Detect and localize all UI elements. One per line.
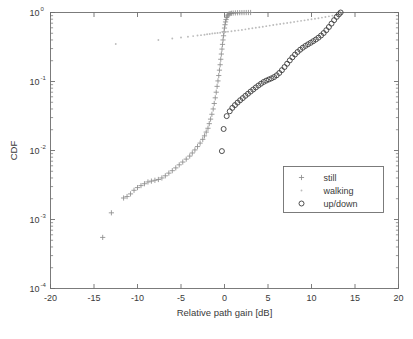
y-tick-base: 10 <box>29 215 39 225</box>
y-tick-base: 10 <box>29 8 39 18</box>
marker-plus <box>166 171 171 176</box>
marker-dot <box>251 27 253 29</box>
marker-plus <box>192 147 197 152</box>
marker-dot <box>328 15 330 17</box>
marker-circle <box>219 149 224 154</box>
marker-circle <box>221 126 226 131</box>
y-tick-base: 10 <box>29 146 39 156</box>
x-tick-label: 20 <box>393 293 403 303</box>
marker-plus <box>219 51 224 56</box>
legend-label: up/down <box>324 199 358 209</box>
marker-dot <box>222 31 224 33</box>
marker-plus <box>209 112 214 117</box>
marker-dot <box>244 28 246 30</box>
y-tick-base: 10 <box>29 77 39 87</box>
marker-circle <box>224 114 229 119</box>
y-axis-label: CDF <box>8 141 19 161</box>
x-tick-label: -5 <box>177 293 185 303</box>
x-tick-label: -10 <box>131 293 144 303</box>
marker-plus <box>190 150 195 155</box>
y-tick-exponent: 0 <box>41 6 45 12</box>
marker-circle <box>285 61 290 66</box>
marker-dot <box>331 15 333 17</box>
marker-dot <box>224 31 226 33</box>
marker-plus <box>222 25 227 30</box>
y-tick-exponent: -4 <box>41 282 47 288</box>
marker-dot <box>255 27 257 29</box>
marker-plus <box>208 117 213 122</box>
marker-plus <box>216 73 221 78</box>
series-still <box>100 10 253 240</box>
marker-dot <box>192 35 194 37</box>
y-tick-exponent: -3 <box>41 213 47 219</box>
y-tick-exponent: -2 <box>41 144 47 150</box>
marker-dot <box>209 33 211 35</box>
series-up-down <box>219 10 343 154</box>
marker-dot <box>227 31 229 33</box>
y-tick-label: 10-3 <box>29 213 46 225</box>
marker-dot <box>258 26 260 28</box>
marker-dot <box>180 36 182 38</box>
marker-plus <box>173 165 178 170</box>
marker-dot <box>311 18 313 20</box>
marker-plus <box>218 62 223 67</box>
marker-dot <box>248 28 250 30</box>
y-tick-exponent: -1 <box>41 75 47 81</box>
marker-dot <box>206 33 208 35</box>
x-tick-label: 15 <box>350 293 360 303</box>
marker-dot <box>231 30 233 32</box>
marker-dot <box>276 24 278 26</box>
marker-plus <box>198 141 203 146</box>
marker-plus <box>187 153 192 158</box>
marker-circle <box>227 109 232 114</box>
marker-plus <box>131 188 136 193</box>
marker-plus <box>195 144 200 149</box>
marker-dot <box>307 19 309 21</box>
x-axis-label: Relative path gain [dB] <box>177 307 273 318</box>
marker-dot <box>286 22 288 24</box>
y-tick-label: 10-1 <box>29 75 46 87</box>
marker-plus <box>222 22 227 27</box>
marker-plus <box>149 179 154 184</box>
cdf-chart-figure: -20-15-10-50510152010010-110-210-310-4Re… <box>0 0 413 339</box>
marker-dot <box>272 24 274 26</box>
marker-plus <box>152 178 157 183</box>
y-tick-base: 10 <box>29 284 39 294</box>
marker-dot <box>200 34 202 36</box>
marker-dot <box>297 20 299 22</box>
marker-dot <box>115 43 117 45</box>
marker-plus <box>170 168 175 173</box>
marker-dot <box>219 32 221 34</box>
marker-plus <box>214 90 219 95</box>
marker-dot <box>214 32 216 34</box>
marker-plus <box>177 162 182 167</box>
marker-plus <box>184 157 189 162</box>
chart-canvas: -20-15-10-50510152010010-110-210-310-4Re… <box>0 0 413 339</box>
y-tick-label: 10-2 <box>29 144 46 156</box>
marker-dot <box>171 38 173 40</box>
marker-plus <box>220 42 225 47</box>
marker-plus <box>215 84 220 89</box>
legend-label: walking <box>323 186 354 196</box>
marker-dot <box>211 33 213 35</box>
x-tick-label: 5 <box>265 293 270 303</box>
marker-plus <box>220 37 225 42</box>
marker-dot <box>283 22 285 24</box>
marker-dot <box>234 30 236 32</box>
marker-dot <box>318 17 320 19</box>
marker-plus <box>100 235 105 240</box>
marker-circle <box>332 18 337 23</box>
marker-plus <box>215 78 220 83</box>
x-tick-label: -15 <box>87 293 100 303</box>
marker-dot <box>324 16 326 18</box>
marker-dot <box>269 25 271 27</box>
marker-dot <box>204 34 206 36</box>
marker-dot <box>241 29 243 31</box>
marker-dot <box>321 17 323 19</box>
legend: stillwalkingup/down <box>284 167 384 213</box>
marker-dot <box>262 26 264 28</box>
marker-plus <box>217 68 222 73</box>
marker-dot <box>197 35 199 37</box>
marker-plus <box>221 33 226 38</box>
legend-label: still <box>324 173 337 183</box>
